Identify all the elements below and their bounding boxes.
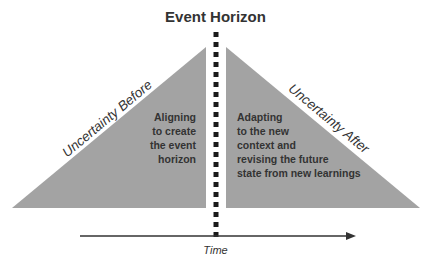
diagram-title: Event Horizon [0,8,431,25]
right-text-line: context and [237,138,417,152]
left-triangle-text: Aligning to create the event horizon [96,110,196,166]
left-text-line: horizon [96,152,196,166]
right-text-line: to the new [237,124,417,138]
left-text-line: the event [96,138,196,152]
time-axis-label: Time [0,244,431,256]
time-axis-arrowhead [346,232,356,240]
left-text-line: to create [96,124,196,138]
right-text-line: revising the future [237,152,417,166]
right-text-line: Adapting [237,110,417,124]
right-triangle-text: Adapting to the new context and revising… [237,110,417,180]
left-text-line: Aligning [96,110,196,124]
right-text-line: state from new learnings [237,166,417,180]
